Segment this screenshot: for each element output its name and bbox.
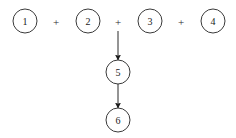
node-1[interactable]: 1 [13,9,37,33]
operator-plus-2: + [115,16,121,28]
node-3[interactable]: 3 [138,9,162,33]
node-1-label: 1 [23,16,28,27]
node-2-label: 2 [86,16,91,27]
diagram-svg: 1 + 2 + 3 + 4 5 [0,0,236,138]
operator-plus-1: + [53,16,59,28]
node-4-label: 4 [211,16,216,27]
node-5-label: 5 [116,67,121,78]
operator-plus-3: + [178,16,184,28]
node-6[interactable]: 6 [106,108,130,132]
node-5[interactable]: 5 [106,60,130,84]
diagram-canvas: 1 + 2 + 3 + 4 5 [0,0,236,138]
node-2[interactable]: 2 [76,9,100,33]
node-4[interactable]: 4 [201,9,225,33]
node-3-label: 3 [148,16,153,27]
node-6-label: 6 [116,115,121,126]
